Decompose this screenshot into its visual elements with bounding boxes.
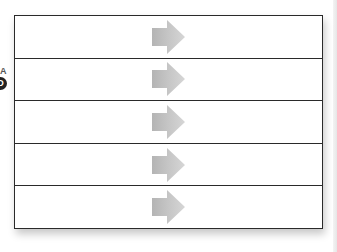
diagram-row-4 [15, 144, 322, 187]
right-arrow-icon [152, 148, 185, 182]
badge-top-letter: A [0, 66, 7, 76]
diagram-box [14, 15, 323, 229]
right-arrow-icon [152, 105, 185, 139]
clipped-badge: A D [0, 66, 8, 92]
badge-circle-letter: D [0, 77, 7, 90]
diagram-row-2 [15, 59, 322, 102]
diagram-row-3 [15, 101, 322, 144]
right-arrow-icon [152, 190, 185, 224]
right-arrow-icon [152, 62, 185, 96]
page-edge-strip [333, 0, 337, 252]
diagram-row-5 [15, 186, 322, 228]
right-arrow-icon [152, 20, 185, 54]
diagram-row-1 [15, 16, 322, 59]
